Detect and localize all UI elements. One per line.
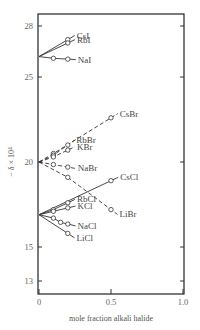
series-label: NaI xyxy=(78,55,92,65)
data-point-marker xyxy=(66,206,70,210)
data-point-marker xyxy=(51,56,55,60)
y-tick-label: 28 xyxy=(25,21,34,31)
data-point-marker xyxy=(51,162,55,166)
y-axis-label: − δ × 10⁴ xyxy=(7,147,16,177)
data-point-marker xyxy=(66,41,70,45)
data-point-marker xyxy=(109,207,113,211)
data-point-marker xyxy=(66,143,70,147)
data-point-marker xyxy=(51,216,55,220)
data-point-marker xyxy=(66,175,70,179)
data-point-marker xyxy=(58,220,62,224)
data-point-marker xyxy=(66,201,70,205)
series-nacl: NaCl xyxy=(39,215,97,231)
series-label: KBr xyxy=(77,142,93,152)
y-tick-label: 20 xyxy=(25,157,34,167)
data-point-marker xyxy=(66,57,70,61)
data-point-marker xyxy=(66,231,70,235)
chart: 131520252800.51.0 CsIRbINaICsBrRbBrKBrNa… xyxy=(0,0,200,330)
series-label: LiCl xyxy=(77,233,94,243)
x-tick-label: 0 xyxy=(37,297,41,307)
data-point-marker xyxy=(51,155,55,159)
data-point-marker xyxy=(109,179,113,183)
data-point-marker xyxy=(66,148,70,152)
series-label: CsCl xyxy=(120,172,139,182)
series-label: KCl xyxy=(78,201,94,211)
data-point-marker xyxy=(51,209,55,213)
x-tick-label: 1.0 xyxy=(178,297,189,307)
series-label: RbI xyxy=(77,35,91,45)
series-label: NaBr xyxy=(78,163,98,173)
y-tick-label: 15 xyxy=(25,242,34,252)
series-label: CsBr xyxy=(120,109,139,119)
data-point-marker xyxy=(66,222,70,226)
y-tick-label: 13 xyxy=(25,276,34,286)
x-tick-label: 0.5 xyxy=(106,297,117,307)
series-nabr: NaBr xyxy=(39,162,97,173)
y-tick-label: 25 xyxy=(25,72,34,82)
data-series: CsIRbINaICsBrRbBrKBrNaBrLiBrCsClRbClKClN… xyxy=(39,31,139,243)
series-label: LiBr xyxy=(119,209,136,219)
data-point-marker xyxy=(109,116,113,120)
data-point-marker xyxy=(66,165,70,169)
series-rbi: RbI xyxy=(39,35,91,57)
series-nai: NaI xyxy=(39,55,91,65)
x-axis-label: mole fraction alkali halide xyxy=(69,314,154,323)
series-label: NaCl xyxy=(78,221,97,231)
